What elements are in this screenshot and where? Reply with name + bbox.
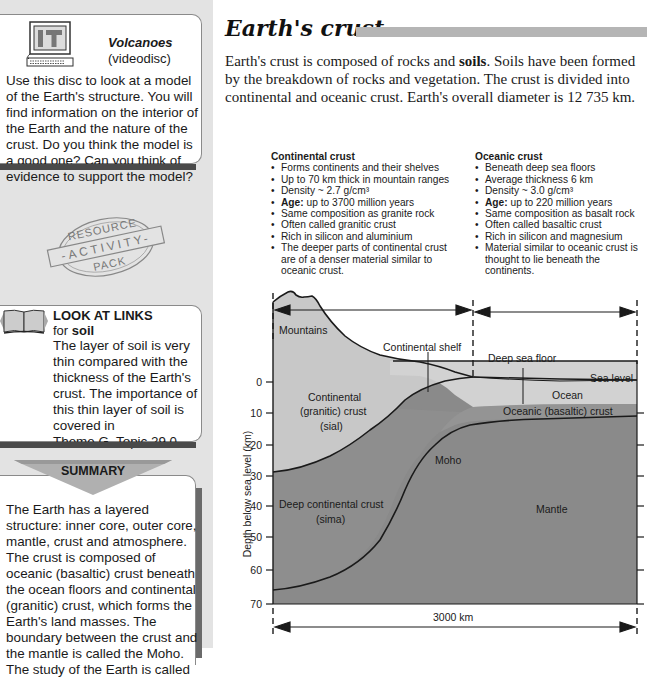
y-tick: 50 <box>242 531 262 543</box>
y-tick: 0 <box>242 376 262 388</box>
ocean-label: Ocean <box>552 389 583 401</box>
mountains-label: Mountains <box>279 324 327 336</box>
deep-continental-label-1: Deep continental crust <box>279 498 383 510</box>
continental-crust-label-1: Continental <box>308 391 361 403</box>
y-tick: 60 <box>242 564 262 576</box>
y-tick: 20 <box>242 439 262 451</box>
y-tick: 10 <box>242 407 262 419</box>
sea-level-label: Sea level <box>590 372 633 384</box>
y-tick: 70 <box>242 598 262 610</box>
continental-shelf-label: Continental shelf <box>383 341 461 353</box>
continental-crust-label-2: (granitic) crust <box>300 405 367 417</box>
mantle-label: Mantle <box>536 503 568 515</box>
oceanic-crust-label: Oceanic (basaltic) crust <box>503 405 613 417</box>
continental-crust-label-3: (sial) <box>320 420 343 432</box>
deep-sea-floor-label: Deep sea floor <box>488 352 556 364</box>
y-tick: 40 <box>242 500 262 512</box>
deep-continental-label-2: (sima) <box>316 513 345 525</box>
scale-label: 3000 km <box>433 611 473 623</box>
y-tick: 30 <box>242 470 262 482</box>
moho-label: Moho <box>435 454 461 466</box>
